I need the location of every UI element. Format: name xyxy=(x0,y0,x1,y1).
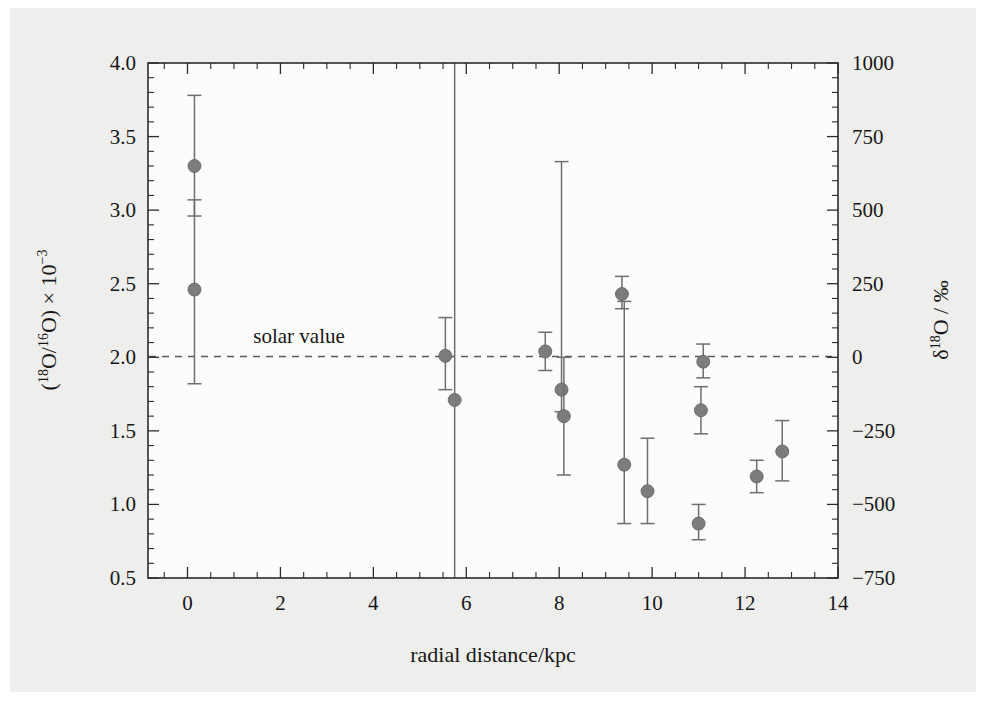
svg-text:δ18O / ‰: δ18O / ‰ xyxy=(928,280,953,359)
data-point-marker xyxy=(697,355,710,368)
y-tick-label: 1.0 xyxy=(110,492,136,516)
data-point-marker xyxy=(641,485,654,498)
annotations-layer: solar value xyxy=(253,324,345,348)
y2-tick-label: 0 xyxy=(852,345,863,369)
x-tick-label: 12 xyxy=(735,591,756,615)
y-axis-title-exponent: −3 xyxy=(35,250,50,265)
y-tick-label: 2.5 xyxy=(110,272,136,296)
y2-axis-title-sup-18: 18 xyxy=(928,335,943,349)
y2-tick-label: −500 xyxy=(852,492,895,516)
x-tick-label: 14 xyxy=(828,591,850,615)
y-axis-title-sup-16: 16 xyxy=(36,333,51,347)
y-axis-title-close-paren: ) xyxy=(36,310,61,317)
y-tick-label: 2.0 xyxy=(110,345,136,369)
plot-background xyxy=(148,63,838,578)
data-point-marker xyxy=(557,410,570,423)
y-tick-label: 3.0 xyxy=(110,198,136,222)
x-axis-tick-labels: 02468101214 xyxy=(182,591,849,615)
x-tick-label: 8 xyxy=(554,591,565,615)
solar-value-label: solar value xyxy=(253,324,345,348)
y-tick-label: 4.0 xyxy=(110,51,136,75)
x-tick-label: 10 xyxy=(642,591,663,615)
data-point-marker xyxy=(439,349,452,362)
data-point-marker xyxy=(750,470,763,483)
x-tick-label: 6 xyxy=(461,591,472,615)
y-tick-label: 1.5 xyxy=(110,419,136,443)
y2-axis-title-base: O / ‰ xyxy=(928,280,953,335)
data-point-marker xyxy=(555,383,568,396)
data-point-marker xyxy=(692,517,705,530)
x-axis-title: radial distance/kpc xyxy=(410,642,576,667)
scatter-chart: 02468101214 0.51.01.52.02.53.03.54.0 −75… xyxy=(0,0,988,714)
data-point-marker xyxy=(539,345,552,358)
y-tick-label: 3.5 xyxy=(110,125,136,149)
y-axis-tick-labels: 0.51.01.52.02.53.03.54.0 xyxy=(110,51,136,590)
figure-root: 02468101214 0.51.01.52.02.53.03.54.0 −75… xyxy=(0,0,988,714)
y2-tick-label: −250 xyxy=(852,419,895,443)
y2-axis-title-delta: δ xyxy=(928,349,953,359)
y2-tick-label: 500 xyxy=(852,198,884,222)
y-axis-title-times-ten: × 10 xyxy=(36,264,61,309)
y-tick-label: 0.5 xyxy=(110,566,136,590)
data-point-marker xyxy=(615,288,628,301)
data-point-marker xyxy=(776,445,789,458)
y2-tick-label: 750 xyxy=(852,125,884,149)
y-axis-title-base-o: O xyxy=(36,317,61,333)
data-point-marker xyxy=(618,458,631,471)
y2-axis-tick-labels: −750−500−25002505007501000 xyxy=(852,51,895,590)
y-axis-title: (18O/16O) × 10−3 xyxy=(35,250,61,391)
x-tick-label: 4 xyxy=(368,591,379,615)
y2-tick-label: −750 xyxy=(852,566,895,590)
y2-tick-label: 1000 xyxy=(852,51,894,75)
y2-axis-title: δ18O / ‰ xyxy=(928,280,953,359)
x-tick-label: 2 xyxy=(275,591,286,615)
data-point-marker xyxy=(694,404,707,417)
y-axis-title-base-o-slash: O/ xyxy=(36,346,61,369)
data-point-marker xyxy=(448,393,461,406)
plot-area-background xyxy=(148,63,838,578)
y2-tick-label: 250 xyxy=(852,272,884,296)
data-point-marker xyxy=(188,160,201,173)
data-point-marker xyxy=(188,283,201,296)
y-axis-title-sup-18: 18 xyxy=(36,369,51,383)
y-axis-title-open-paren: ( xyxy=(36,383,61,390)
svg-text:(18O/16O) × 10−3: (18O/16O) × 10−3 xyxy=(35,250,61,391)
x-tick-label: 0 xyxy=(182,591,193,615)
